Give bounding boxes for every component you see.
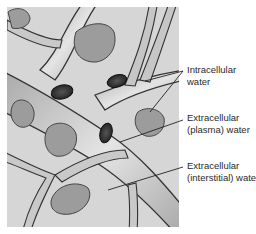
- label-line: (interstitial) water: [187, 172, 256, 184]
- label-interstitial-water: Extracellular (interstitial) water: [187, 160, 256, 184]
- label-line: Extracellular: [187, 112, 250, 124]
- capillary-branch-lower-vertical: [128, 183, 138, 234]
- tissue-cell-2: [11, 100, 34, 127]
- label-intracellular-water: Intracellular water: [187, 64, 236, 88]
- label-line: (plasma) water: [187, 124, 250, 136]
- label-line: Extracellular: [187, 160, 256, 172]
- tissue-cell-4: [135, 109, 164, 137]
- label-plasma-water: Extracellular (plasma) water: [187, 112, 250, 136]
- tissue-cell-3: [45, 123, 77, 156]
- tissue-cell-6: [8, 9, 30, 29]
- label-line: water: [187, 76, 236, 88]
- label-line: Intracellular: [187, 64, 236, 76]
